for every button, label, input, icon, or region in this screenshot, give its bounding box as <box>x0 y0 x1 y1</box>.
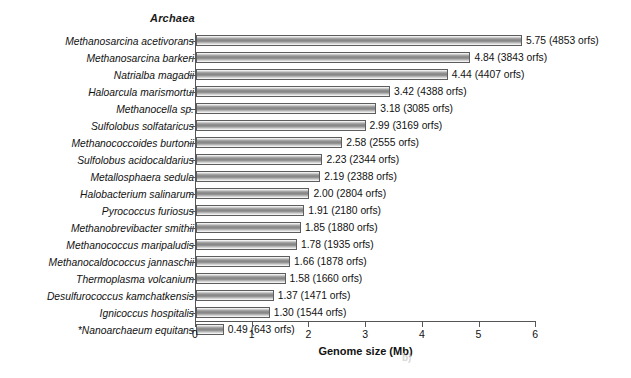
bar <box>196 222 301 233</box>
bar-row: Sulfolobus acidocaldarius2.23 (2344 orfs… <box>0 152 631 169</box>
bar-value-label: 1.37 (1471 orfs) <box>278 289 351 302</box>
species-label: *Nanoarchaeum equitans <box>0 324 194 337</box>
bar-row: Haloarcula marismortui3.42 (4388 orfs) <box>0 84 631 101</box>
y-axis-tick <box>189 58 195 59</box>
x-axis-tick <box>479 322 480 327</box>
y-axis-tick <box>189 313 195 314</box>
x-axis-tick <box>252 322 253 327</box>
bar-row: Metallosphaera sedula2.19 (2388 orfs) <box>0 169 631 186</box>
bar <box>196 273 286 284</box>
bar-row: Methanobrevibacter smithii1.85 (1880 orf… <box>0 220 631 237</box>
bar-fill <box>196 205 304 216</box>
y-axis-tick <box>189 262 195 263</box>
x-axis-tick-label: 5 <box>467 328 491 340</box>
bar-row: Methanosarcina acetivorans5.75 (4853 orf… <box>0 33 631 50</box>
bar <box>196 69 448 80</box>
bar <box>196 290 274 301</box>
bar-row: Pyrococcus furiosus1.91 (2180 orfs) <box>0 203 631 220</box>
y-axis-tick <box>189 194 195 195</box>
bar-value-label: 2.23 (2344 orfs) <box>326 153 399 166</box>
species-label: Methanobrevibacter smithii <box>0 222 194 235</box>
y-axis-tick <box>189 109 195 110</box>
bar-row: Sulfolobus solfataricus2.99 (3169 orfs) <box>0 118 631 135</box>
bar-row: Methanococcus maripaludis1.78 (1935 orfs… <box>0 237 631 254</box>
bar-row: Halobacterium salinarum2.00 (2804 orfs) <box>0 186 631 203</box>
species-label: Sulfolobus solfataricus <box>0 120 194 133</box>
y-axis-tick <box>189 211 195 212</box>
bar-fill <box>196 86 390 97</box>
bar-fill <box>196 256 290 267</box>
bar-row: Methanocaldococcus jannaschii1.66 (1878 … <box>0 254 631 271</box>
bar-fill <box>196 137 342 148</box>
bar <box>196 120 366 131</box>
bar-fill <box>196 239 297 250</box>
bar <box>196 86 390 97</box>
bar-row: Methanococcoides burtonii2.58 (2555 orfs… <box>0 135 631 152</box>
bar-value-label: 1.30 (1544 orfs) <box>274 306 347 319</box>
species-label: Methanosarcina barkeri <box>0 52 194 65</box>
bar-value-label: 2.99 (3169 orfs) <box>370 119 443 132</box>
y-axis-tick <box>189 177 195 178</box>
x-axis-tick <box>365 322 366 327</box>
bar-fill <box>196 103 376 114</box>
y-axis-tick <box>189 296 195 297</box>
bar-fill <box>196 120 366 131</box>
bar-value-label: 1.91 (2180 orfs) <box>308 204 381 217</box>
bar-value-label: 3.18 (3085 orfs) <box>380 102 453 115</box>
bar <box>196 307 270 318</box>
species-label: Desulfurococcus kamchatkensis <box>0 290 194 303</box>
bar <box>196 188 309 199</box>
species-label: Methanococcoides burtonii <box>0 137 194 150</box>
x-axis-tick-label: 0 <box>183 328 207 340</box>
bar-value-label: 1.58 (1660 orfs) <box>290 272 363 285</box>
bar-row: Methanosarcina barkeri4.84 (3843 orfs) <box>0 50 631 67</box>
species-label: Methanococcus maripaludis <box>0 239 194 252</box>
y-axis-tick <box>189 126 195 127</box>
bar-fill <box>196 154 322 165</box>
y-axis-tick <box>189 160 195 161</box>
species-label: Metallosphaera sedula <box>0 171 194 184</box>
y-axis-tick <box>189 143 195 144</box>
bar-row: Desulfurococcus kamchatkensis1.37 (1471 … <box>0 288 631 305</box>
bar-fill <box>196 222 301 233</box>
y-axis-tick <box>189 75 195 76</box>
bar <box>196 171 320 182</box>
bar <box>196 239 297 250</box>
figure-panel-label: b) <box>402 352 411 363</box>
species-label: Methanocella sp. <box>0 103 194 116</box>
x-axis-tick-label: 6 <box>523 328 547 340</box>
bar <box>196 154 322 165</box>
bar-row: Methanocella sp.3.18 (3085 orfs) <box>0 101 631 118</box>
bar <box>196 52 470 63</box>
y-axis-tick <box>189 228 195 229</box>
species-label: Methanocaldococcus jannaschii <box>0 256 194 269</box>
y-axis-tick <box>189 41 195 42</box>
bar-row: Natrialba magadii4.44 (4407 orfs) <box>0 67 631 84</box>
y-axis-tick <box>189 245 195 246</box>
bar-value-label: 1.85 (1880 orfs) <box>305 221 378 234</box>
species-label: Sulfolobus acidocaldarius <box>0 154 194 167</box>
bar <box>196 256 290 267</box>
y-axis-tick <box>189 92 195 93</box>
species-label: Halobacterium salinarum <box>0 188 194 201</box>
x-axis-tick-label: 2 <box>296 328 320 340</box>
bar-value-label: 2.19 (2388 orfs) <box>324 170 397 183</box>
x-axis-tick <box>422 322 423 327</box>
species-label: Haloarcula marismortui <box>0 86 194 99</box>
bar <box>196 205 304 216</box>
bar-value-label: 2.58 (2555 orfs) <box>346 136 419 149</box>
species-label: Natrialba magadii <box>0 69 194 82</box>
bar-value-label: 3.42 (4388 orfs) <box>394 85 467 98</box>
x-axis-title: Genome size (Mb) <box>195 345 536 357</box>
bar-fill <box>196 171 320 182</box>
species-label: Methanosarcina acetivorans <box>0 35 194 48</box>
bar-value-label: 1.78 (1935 orfs) <box>301 238 374 251</box>
bar-fill <box>196 52 470 63</box>
species-label: Pyrococcus furiosus <box>0 205 194 218</box>
chart-title: Archaea <box>150 12 195 24</box>
bar <box>196 35 522 46</box>
bar-fill <box>196 273 286 284</box>
bar-value-label: 2.00 (2804 orfs) <box>313 187 386 200</box>
species-label: Thermoplasma volcanium <box>0 273 194 286</box>
genome-size-bar-chart: Archaea Methanosarcina acetivorans5.75 (… <box>0 0 631 378</box>
